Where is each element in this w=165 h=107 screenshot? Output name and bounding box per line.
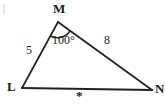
vertex-label-l: L	[7, 80, 16, 93]
side-length-label-lm: 5	[26, 44, 32, 56]
side-length-label-mn: 8	[104, 34, 110, 46]
unknown-side-asterisk: *	[76, 89, 83, 102]
triangle-drawing	[0, 0, 165, 107]
side-ln-line	[22, 88, 152, 90]
geometry-figure: M L N 5 8 100° *	[0, 0, 165, 107]
vertex-label-n: N	[155, 82, 164, 95]
vertex-label-m: M	[53, 2, 65, 15]
angle-measure-label-m: 100°	[52, 34, 75, 46]
